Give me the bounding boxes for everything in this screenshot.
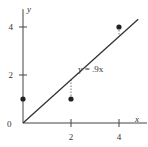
y-tick-label: 2 xyxy=(9,70,14,80)
residuals xyxy=(71,27,119,99)
points xyxy=(20,24,121,101)
y-axis-label: y xyxy=(26,4,31,14)
labels: y x 0 y = .9x xyxy=(7,4,139,129)
axes: 2424 xyxy=(9,9,148,142)
fit-line-label: y = .9x xyxy=(78,64,104,74)
x-axis-label: x xyxy=(134,114,139,124)
data-point xyxy=(20,96,25,101)
chart: 2424 y x 0 y = .9x xyxy=(0,0,147,147)
data-point xyxy=(68,96,73,101)
origin-label: 0 xyxy=(7,119,12,129)
y-tick-label: 4 xyxy=(9,22,14,32)
data-point xyxy=(116,24,121,29)
x-tick-label: 2 xyxy=(69,132,74,142)
x-tick-label: 4 xyxy=(117,132,122,142)
